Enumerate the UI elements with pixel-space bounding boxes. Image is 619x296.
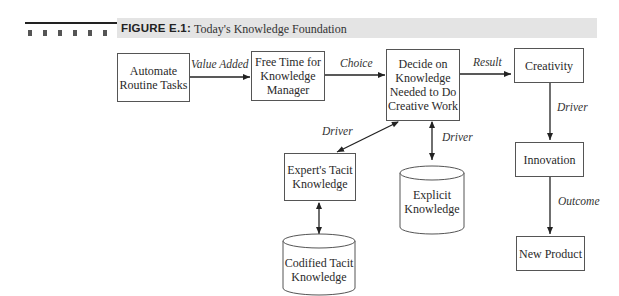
- node-automate-routine-tasks: Automate Routine Tasks: [117, 53, 190, 102]
- edge-label-driver-innovation: Driver: [557, 101, 588, 113]
- edge-label-driver-expert: Driver: [322, 125, 353, 137]
- node-explicit-knowledge: Explicit Knowledge: [400, 188, 464, 216]
- node-free-time: Free Time for Knowledge Manager: [251, 51, 325, 101]
- node-codified-tacit: Codified Tacit Knowledge: [283, 256, 355, 284]
- edge-label-driver-explicit: Driver: [442, 131, 473, 143]
- edge-label-result: Result: [473, 56, 502, 68]
- edge-label-outcome: Outcome: [558, 195, 600, 207]
- node-innovation: Innovation: [515, 142, 584, 177]
- node-creativity: Creativity: [514, 48, 584, 83]
- node-expert-tacit: Expert's Tacit Knowledge: [284, 153, 356, 201]
- edge-label-choice: Choice: [340, 57, 373, 69]
- edge-label-value-added: Value Added: [191, 58, 249, 70]
- node-new-product: New Product: [516, 236, 585, 271]
- node-decide-knowledge: Decide on Knowledge Needed to Do Creativ…: [386, 49, 460, 121]
